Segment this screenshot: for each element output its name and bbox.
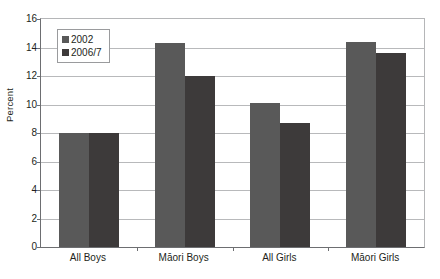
legend-item-label: 2002 — [71, 33, 93, 46]
x-axis-tick-mark — [233, 247, 234, 251]
y-axis-tick-label: 16 — [2, 13, 40, 24]
y-axis-tick-label: 6 — [2, 155, 40, 166]
y-axis-tick-label: 14 — [2, 41, 40, 52]
y-axis-tick-label: 8 — [2, 127, 40, 138]
x-axis-tick-labels: All BoysMāori BoysAll GirlsMāori Girls — [40, 252, 425, 272]
bar — [280, 123, 310, 247]
y-axis-tick-label: 10 — [2, 98, 40, 109]
bar — [376, 53, 406, 247]
bar — [250, 103, 280, 247]
legend-item-label: 2006/7 — [71, 46, 102, 59]
y-axis-tick-label: 12 — [2, 70, 40, 81]
legend-item: 2002 — [62, 33, 102, 46]
bar-group — [328, 19, 424, 247]
y-axis-tick-label: 0 — [2, 241, 40, 252]
x-axis-tick-label: Māori Boys — [159, 252, 209, 263]
bar — [59, 133, 89, 247]
x-axis-tick-mark — [328, 247, 329, 251]
legend-item: 2006/7 — [62, 46, 102, 59]
x-axis-tick-label: All Girls — [262, 252, 296, 263]
bar — [155, 43, 185, 247]
y-axis-tick-mark — [37, 247, 41, 248]
y-axis-tick-label: 2 — [2, 212, 40, 223]
bar-group — [137, 19, 233, 247]
bar-group — [233, 19, 329, 247]
x-axis-tick-mark — [137, 247, 138, 251]
x-axis-tick-label: All Boys — [70, 252, 106, 263]
bar — [185, 76, 215, 247]
y-axis-tick-label: 4 — [2, 184, 40, 195]
y-axis-tick-labels: 0246810121416 — [0, 0, 40, 279]
bar — [346, 42, 376, 247]
bar-chart-figure: Percent 0246810121416 All BoysMāori Boys… — [0, 0, 440, 279]
x-axis-tick-label: Māori Girls — [351, 252, 399, 263]
bar — [89, 133, 119, 247]
legend: 20022006/7 — [57, 29, 110, 63]
legend-swatch-icon — [62, 36, 69, 43]
legend-swatch-icon — [62, 49, 69, 56]
